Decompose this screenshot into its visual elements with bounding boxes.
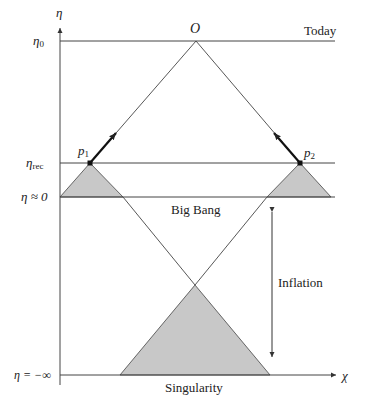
p2-label: p2 (304, 146, 315, 161)
eta-axis-label: η (56, 6, 62, 19)
point-p2 (298, 161, 303, 166)
point-p1 (88, 161, 93, 166)
singularity-label: Singularity (165, 381, 223, 394)
photon-arrow-p1 (90, 133, 116, 163)
past-lightcone-p1 (60, 163, 123, 197)
big-bang-label: Big Bang (171, 203, 220, 216)
eta-minus-infinity-label: η = −∞ (14, 369, 51, 381)
eta-zero-label: η ≈ 0 (21, 190, 48, 203)
observer-label: O (190, 22, 200, 36)
eta-rec-label: ηrec (26, 156, 43, 171)
past-lightcone-p2 (267, 163, 331, 197)
today-label: Today (304, 24, 336, 37)
photon-arrow-p2 (274, 133, 300, 163)
chi-axis-label: χ (342, 369, 348, 382)
inflation-label: Inflation (278, 276, 323, 289)
p1-label: p1 (78, 144, 89, 159)
eta0-label: η0 (33, 34, 44, 49)
inflation-overlap-triangle (120, 285, 270, 375)
